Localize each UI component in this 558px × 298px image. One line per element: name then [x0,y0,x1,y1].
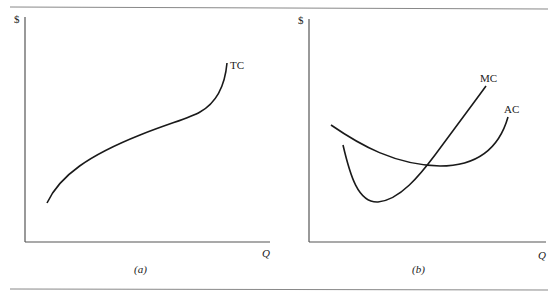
tc-label: TC [230,60,244,71]
panel-b-y-axis-label: $ [298,15,304,26]
top-rule [10,7,548,9]
panel-b-caption: (b) [412,264,425,275]
panel-a-axes [25,17,270,242]
tc-curve [47,63,227,203]
panel-a-caption: (a) [134,264,147,275]
cost-curves-figure [0,0,558,298]
bottom-rule [10,289,548,290]
panel-b-x-axis-label: Q [538,250,546,261]
panel-a-y-axis-label: $ [14,14,20,25]
panel-a-x-axis-label: Q [262,248,270,259]
mc-curve [343,86,486,202]
ac-label: AC [504,104,519,115]
mc-label: MC [480,73,497,84]
panel-b-axes [309,19,546,242]
ac-curve [331,117,508,166]
